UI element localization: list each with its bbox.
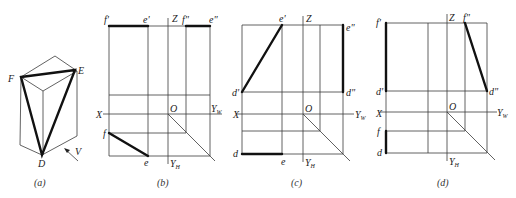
projection-d-e-front [242, 25, 282, 92]
label-e: e [281, 156, 286, 167]
label-Z: Z [449, 12, 455, 23]
label-f-dprime: f" [463, 12, 471, 23]
miter-line [168, 114, 215, 161]
label-Yw: YW [497, 107, 509, 119]
label-D: D [37, 158, 46, 169]
label-e-dprime: e" [346, 22, 355, 33]
label-X: X [375, 108, 383, 119]
label-E: E [77, 65, 84, 76]
triangle-def [21, 70, 75, 155]
label-V: V [75, 146, 83, 157]
panel-c-projection: e' Z e" d' d" X O YW d e YH (c) [232, 13, 367, 189]
label-d: d [233, 148, 239, 159]
label-d-dprime: d" [346, 87, 356, 98]
projection-d-f-side [465, 23, 487, 91]
label-Yh: YH [449, 156, 460, 168]
caption-b: (b) [157, 177, 169, 189]
label-X: X [232, 109, 240, 120]
label-d: d [377, 147, 383, 158]
label-Yh: YH [305, 157, 316, 169]
caption-d: (d) [437, 177, 449, 189]
caption-c: (c) [291, 177, 303, 189]
caption-a: (a) [34, 177, 46, 189]
label-e-prime: e' [143, 14, 150, 25]
label-e-prime: e' [279, 13, 286, 24]
label-d-dprime: d" [489, 86, 499, 97]
panel-d-projection: f' Z f" d' d" X O YW f d YH (d) [375, 12, 509, 189]
label-f-prime: f' [376, 17, 382, 28]
label-f: f [103, 128, 107, 139]
orthographic-projection-figure: F E D V (a) f' e' Z f" e" X O YW f e [0, 0, 516, 198]
label-e-dprime: e" [209, 14, 218, 25]
label-X: X [95, 109, 103, 120]
panel-a-isometric: F E D V (a) [7, 56, 84, 189]
label-f: f [377, 126, 381, 137]
label-Yh: YH [170, 158, 181, 170]
label-O: O [305, 103, 312, 114]
label-d-prime: d' [232, 87, 240, 98]
label-Yw: YW [211, 103, 223, 115]
panel-b-projection: f' e' Z f" e" X O YW f e YH (b) [95, 13, 223, 189]
label-Z: Z [306, 13, 312, 24]
label-F: F [7, 73, 15, 84]
label-d-prime: d' [376, 86, 384, 97]
label-e: e [144, 157, 149, 168]
label-f-prime: f' [104, 14, 110, 25]
label-O: O [170, 103, 177, 114]
prism-edge [20, 77, 21, 145]
label-O: O [449, 101, 456, 112]
label-f-dprime: f" [182, 14, 190, 25]
projection-f-e-top [109, 133, 148, 156]
label-Z: Z [172, 13, 178, 24]
label-Yw: YW [355, 109, 367, 121]
